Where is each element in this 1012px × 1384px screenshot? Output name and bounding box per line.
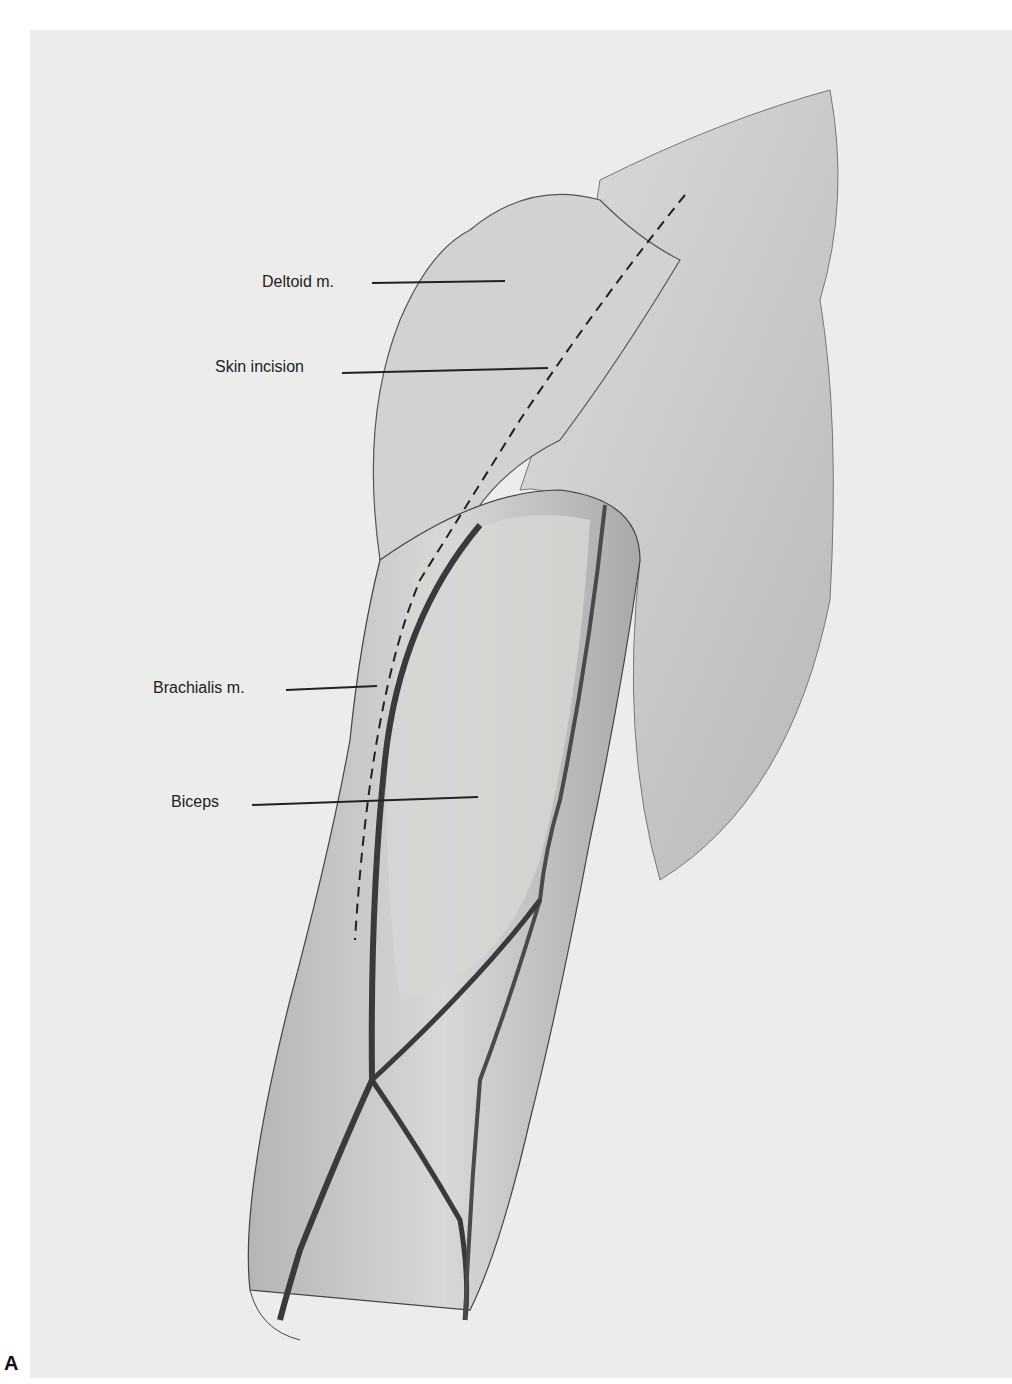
label-deltoid: Deltoid m. — [262, 273, 334, 291]
skin-incision-leader-line — [342, 368, 548, 373]
label-biceps: Biceps — [171, 793, 219, 811]
label-skin-incision: Skin incision — [215, 358, 304, 376]
biceps-leader-line — [252, 797, 478, 805]
deltoid-leader-line — [372, 281, 505, 283]
brachialis-leader-line — [286, 686, 377, 690]
label-brachialis: Brachialis m. — [153, 679, 245, 697]
label-leader-lines — [0, 0, 1012, 1384]
panel-letter: A — [4, 1352, 18, 1375]
